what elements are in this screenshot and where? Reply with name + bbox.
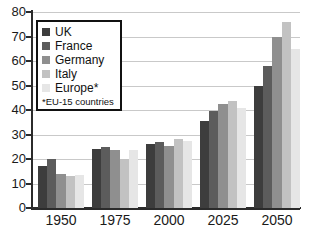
y-tick-80 [26,11,33,13]
bar-europe-2025 [237,108,246,208]
x-tick-label-1950: 1950 [31,212,91,228]
bar-france-2000 [155,142,164,208]
legend-footnote: *EU-15 countries [42,96,116,107]
y-tick-50 [26,85,33,87]
bar-germany-2000 [164,146,173,208]
bar-europe-1975 [129,150,138,208]
bar-germany-1950 [56,174,65,208]
bar-france-1950 [47,159,56,208]
legend-item-uk: UK [42,25,116,39]
x-tick-label-2000: 2000 [139,212,199,228]
legend-swatch-france [42,42,50,50]
y-tick-label-0: 0 [0,201,26,214]
y-tick-0 [26,207,33,209]
bar-germany-2025 [218,104,227,208]
x-tick-label-1975: 1975 [85,212,145,228]
bar-uk-2050 [254,86,263,209]
legend-swatch-uk [42,28,50,36]
y-tick-label-10: 10 [0,177,26,190]
legend-label-germany: Germany [55,54,104,66]
bar-france-2025 [209,111,218,208]
legend-label-italy: Italy [55,68,77,80]
legend-item-germany: Germany [42,53,116,67]
bar-germany-2050 [272,37,281,209]
bar-italy-2050 [282,22,291,208]
y-tick-label-50: 50 [0,79,26,92]
legend-label-europe: Europe* [55,82,98,94]
x-tick-label-2025: 2025 [193,212,253,228]
bar-uk-2000 [146,144,155,208]
gridline-80 [32,12,300,13]
bar-europe-1950 [75,175,84,208]
y-tick-label-40: 40 [0,103,26,116]
bar-europe-2000 [183,141,192,208]
y-tick-20 [26,158,33,160]
bar-italy-2025 [228,101,237,208]
legend-swatch-europe [42,84,50,92]
bar-germany-1975 [110,150,119,208]
y-tick-30 [26,134,33,136]
legend-item-france: France [42,39,116,53]
bar-italy-1950 [66,176,75,208]
bar-uk-2025 [200,121,209,208]
y-tick-60 [26,60,33,62]
y-tick-70 [26,36,33,38]
y-tick-10 [26,183,33,185]
legend-swatch-italy [42,70,50,78]
bar-chart: 01020304050607080 19501975200020252050 U… [0,0,312,238]
y-tick-label-30: 30 [0,128,26,141]
y-tick-label-80: 80 [0,5,26,18]
bar-uk-1950 [38,166,47,208]
bar-europe-2050 [291,49,300,208]
legend-swatch-germany [42,56,50,64]
y-tick-label-70: 70 [0,30,26,43]
bar-italy-2000 [174,139,183,208]
bar-france-1975 [101,147,110,208]
legend-item-europe: Europe* [42,81,116,95]
legend-label-france: France [55,40,92,52]
chart-legend: UK France Germany Italy Europe* *EU-15 c… [36,20,122,111]
bar-italy-1975 [120,159,129,208]
legend-item-italy: Italy [42,67,116,81]
y-tick-40 [26,109,33,111]
y-tick-label-20: 20 [0,152,26,165]
x-tick-label-2050: 2050 [247,212,307,228]
bar-uk-1975 [92,149,101,208]
bar-france-2050 [263,66,272,208]
legend-label-uk: UK [55,26,72,38]
y-tick-label-60: 60 [0,54,26,67]
